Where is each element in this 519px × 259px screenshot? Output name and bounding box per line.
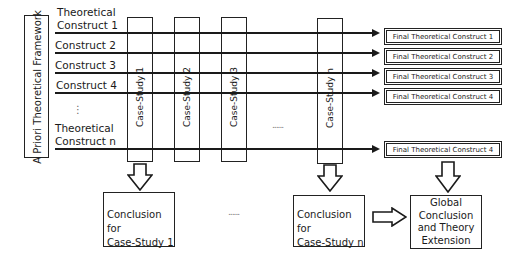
construct-4-line [55,92,375,94]
construct-1-line1: Theoretical [57,6,118,19]
global-line4: Extension [411,235,481,248]
construct-1-line [55,32,375,34]
vertical-ellipsis: ⋮ [73,104,83,115]
construct-2-line [55,52,375,54]
arrow-right-icon [372,89,380,97]
arrow-right-icon [372,29,380,37]
case-study-2-label: Case-Study 2 [182,67,192,127]
global-line1: Global [411,197,481,210]
construct-n-line [55,148,375,150]
conclusion-cs1-line1: Conclusion for [107,208,174,236]
conclusion-csn-line1: Conclusion for [297,208,364,236]
case-study-1-label: Case-Study 1 [135,67,145,127]
final-construct-4: Final Theoretical Construct 4 [386,90,500,103]
construct-n-line1: Theoretical [55,122,116,135]
case-study-ellipsis: ...... [272,120,283,130]
right-arrow-icon [372,207,407,227]
case-study-2-column: Case-Study 2 [174,17,200,162]
final-construct-1: Final Theoretical Construct 1 [386,30,500,43]
global-line2: Conclusion [411,210,481,223]
down-arrow-icon [127,163,153,191]
case-study-1-column: Case-Study 1 [127,17,153,162]
global-line3: and Theory [411,222,481,235]
case-study-3-label: Case-Study 3 [229,67,239,127]
conclusion-case-study-1-box: Conclusion for Case-Study 1 [103,192,175,247]
construct-n-label: Theoretical Construct n [55,122,116,148]
down-arrow-icon [435,161,461,193]
case-study-n-column: Case-Study n [317,18,343,164]
conclusion-csn-line2: Case-Study n [297,236,364,250]
construct-n-line2: Construct n [55,135,116,148]
final-construct-3: Final Theoretical Construct 3 [386,70,500,83]
conclusion-ellipsis: ...... [228,207,239,217]
construct-3-line [55,72,375,74]
arrow-right-icon [372,145,380,153]
construct-4-label: Construct 4 [56,79,117,92]
construct-1-line2: Construct 1 [57,19,118,32]
case-study-3-column: Case-Study 3 [221,17,247,162]
arrow-right-icon [372,69,380,77]
framework-box: A Priori Theoretical Framework [24,15,49,158]
conclusion-cs1-line2: Case-Study 1 [107,236,174,250]
construct-2-label: Construct 2 [55,39,116,52]
arrow-right-icon [372,49,380,57]
case-study-n-label: Case-Study n [325,68,335,128]
construct-1-label: Theoretical Construct 1 [57,6,118,32]
framework-label: A Priori Theoretical Framework [31,10,42,163]
final-construct-n: Final Theoretical Construct 4 [386,143,500,156]
construct-3-label: Construct 3 [55,59,116,72]
conclusion-case-study-n-box: Conclusion for Case-Study n [293,195,365,247]
global-conclusion-box: Global Conclusion and Theory Extension [410,195,482,249]
down-arrow-icon [317,164,343,192]
final-construct-2: Final Theoretical Construct 2 [386,50,500,63]
